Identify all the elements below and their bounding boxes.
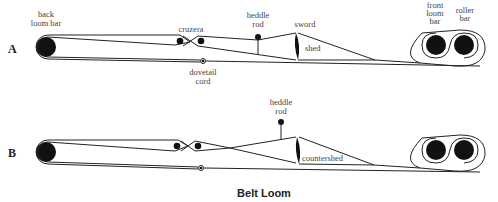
label-shed: shed xyxy=(305,43,321,53)
label-rod-b: rod xyxy=(275,106,287,116)
label-rod: rod xyxy=(252,19,264,29)
label-sword: sword xyxy=(295,19,317,29)
countershed-bottom xyxy=(299,164,420,168)
roller-bar-b xyxy=(454,140,474,160)
sword-b xyxy=(296,137,300,164)
label-cruzera: cruzera xyxy=(178,24,203,34)
front-loom-bar xyxy=(426,35,446,55)
warp-lower-front xyxy=(206,61,480,66)
label-cord: cord xyxy=(195,76,211,86)
back-loom-bar-b xyxy=(36,142,56,162)
back-loom-bar xyxy=(36,37,56,57)
cruzera-stick-left xyxy=(177,38,184,45)
warp-top-layer xyxy=(198,33,296,40)
cruzera-stick-left-b xyxy=(174,143,181,150)
panel-a-label: A xyxy=(8,42,17,56)
cruzera-stick-right-b xyxy=(195,143,202,150)
figure-title: Belt Loom xyxy=(237,187,291,199)
belt-loom-diagram: A back xyxy=(0,0,498,202)
label-countershed: countershed xyxy=(302,153,344,163)
label-front-bar: bar xyxy=(430,16,441,26)
label-loom-bar: loom bar xyxy=(31,18,62,28)
warp-bottom-layer-b xyxy=(195,148,296,163)
roller-bar xyxy=(454,35,474,55)
panel-b-label: B xyxy=(8,146,16,160)
label-roller-bar: bar xyxy=(460,13,471,23)
dovetail-cord xyxy=(202,60,205,63)
sword-a xyxy=(295,33,299,60)
cruzera-stick-right xyxy=(198,38,205,45)
panel-a: A back xyxy=(8,0,485,86)
panel-b: B heddle rod xyxy=(8,97,485,172)
warp-bottom-layer xyxy=(198,46,296,60)
dovetail-cord-b xyxy=(200,167,203,170)
warp-upper-bottom-b xyxy=(48,142,188,151)
warp-upper-bottom xyxy=(48,37,190,45)
front-loom-bar-b xyxy=(426,140,446,160)
